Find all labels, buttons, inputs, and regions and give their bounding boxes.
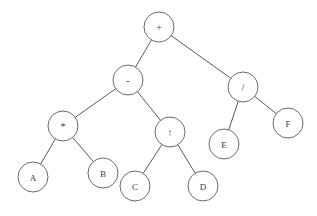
node-label-leafE: E	[221, 140, 227, 150]
tree-node-leafC[interactable]: C	[120, 171, 150, 201]
tree-edge-mul-to-leafB	[73, 137, 94, 161]
tree-node-leafF[interactable]: F	[273, 108, 303, 138]
tree-edge-minus-to-mul	[75, 89, 116, 118]
expression-tree-diagram: +-/*↑EFABCD	[0, 0, 317, 216]
tree-edge-div-to-leafF	[255, 96, 277, 113]
tree-edge-root-to-div	[171, 36, 231, 79]
node-label-root: +	[156, 22, 162, 33]
tree-edge-pow-to-leafD	[178, 145, 195, 173]
tree-node-leafB[interactable]: B	[88, 158, 118, 188]
tree-node-div[interactable]: /	[228, 72, 258, 102]
tree-node-minus[interactable]: -	[113, 65, 143, 95]
tree-edge-pow-to-leafC	[143, 145, 162, 174]
node-label-leafA: A	[30, 173, 37, 183]
tree-node-mul[interactable]: *	[48, 111, 78, 141]
tree-node-leafA[interactable]: A	[18, 162, 48, 192]
node-label-leafF: F	[285, 119, 290, 129]
node-label-minus: -	[126, 75, 129, 86]
node-label-leafC: C	[132, 182, 138, 192]
tree-edge-mul-to-leafA	[41, 139, 56, 164]
tree-edge-div-to-leafE	[229, 101, 239, 130]
tree-edge-root-to-minus	[136, 40, 152, 67]
node-label-mul: *	[61, 121, 66, 132]
tree-edge-minus-to-pow	[137, 92, 160, 121]
tree-node-pow[interactable]: ↑	[155, 117, 185, 147]
tree-node-leafD[interactable]: D	[188, 171, 218, 201]
node-label-leafB: B	[100, 169, 106, 179]
edge-layer	[41, 36, 277, 174]
tree-node-leafE[interactable]: E	[209, 129, 239, 159]
node-layer: +-/*↑EFABCD	[18, 12, 303, 201]
node-label-leafD: D	[200, 182, 207, 192]
node-label-div: /	[242, 82, 245, 93]
tree-node-root[interactable]: +	[144, 12, 174, 42]
node-label-pow: ↑	[168, 127, 173, 138]
